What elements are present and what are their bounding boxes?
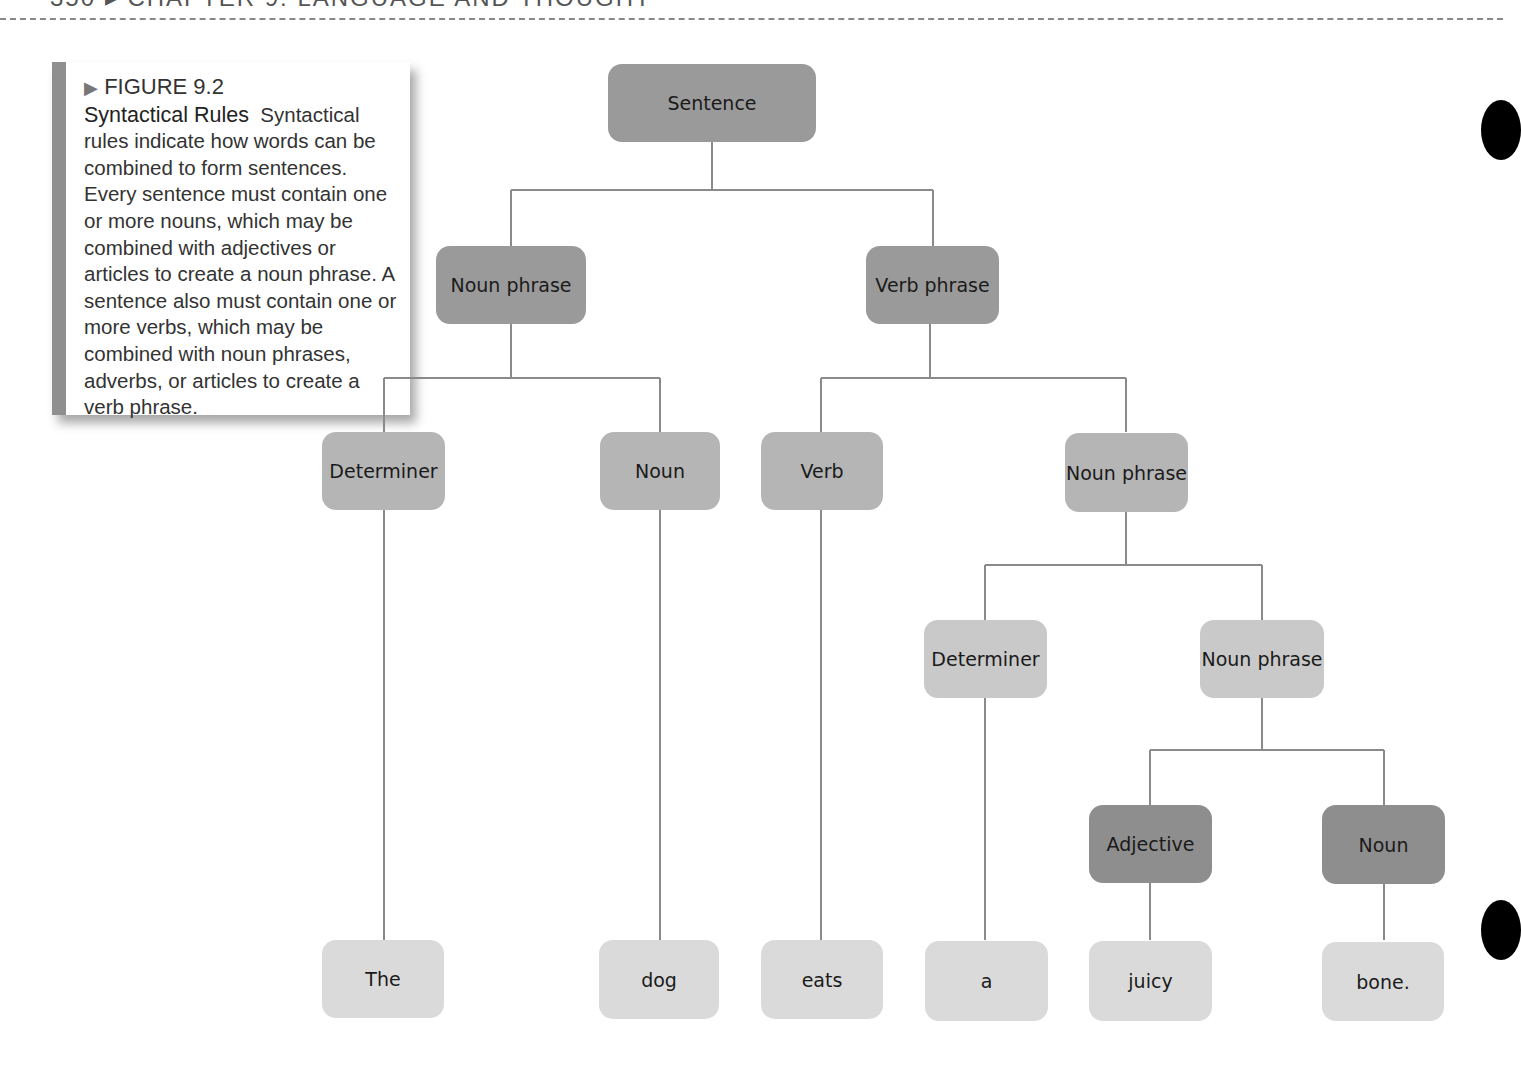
node-noun-phrase: Noun phrase: [436, 246, 586, 324]
node-verb-phrase: Verb phrase: [866, 246, 999, 324]
node-noun: Noun: [600, 432, 720, 510]
node-noun-object: Noun: [1322, 805, 1445, 884]
word-juicy: juicy: [1089, 941, 1212, 1021]
node-noun-phrase-inner: Noun phrase: [1200, 620, 1324, 698]
word-eats: eats: [761, 940, 883, 1019]
word-dog: dog: [599, 940, 719, 1019]
node-determiner-object: Determiner: [924, 620, 1047, 698]
node-noun-phrase-object: Noun phrase: [1065, 433, 1188, 512]
word-a: a: [925, 941, 1048, 1021]
node-sentence: Sentence: [608, 64, 816, 142]
word-bone: bone.: [1322, 942, 1444, 1021]
node-adjective: Adjective: [1089, 805, 1212, 883]
word-the: The: [322, 940, 444, 1018]
node-verb: Verb: [761, 432, 883, 510]
margin-tab-marker: [1481, 900, 1521, 960]
margin-tab-marker: [1481, 100, 1521, 160]
node-determiner: Determiner: [322, 432, 445, 510]
